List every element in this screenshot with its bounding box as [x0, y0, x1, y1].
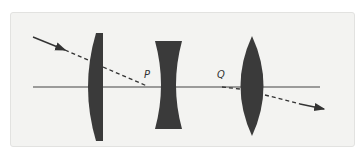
point-P-label: P: [144, 69, 151, 80]
lens-diagram: P Q: [0, 0, 364, 153]
plano-convex-lens: [88, 33, 103, 141]
biconcave-lens: [155, 41, 182, 129]
incident-ray-dashed: [65, 50, 88, 60]
biconvex-lens: [241, 36, 264, 136]
exit-ray-dashed: [265, 95, 300, 104]
refracted-ray-to-P: [103, 67, 147, 86]
point-Q-label: Q: [217, 69, 225, 80]
exit-ray-arrow: [300, 104, 324, 109]
incident-ray-arrow: [33, 37, 65, 50]
